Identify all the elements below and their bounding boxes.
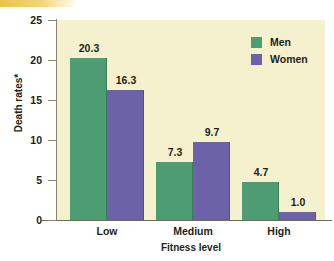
x-tick-label-medium: Medium: [153, 226, 233, 237]
y-tick-0: [48, 220, 56, 221]
legend-item-men[interactable]: Men: [251, 34, 308, 51]
x-tick-label-low: Low: [67, 226, 147, 237]
y-tick-15: [48, 100, 56, 101]
bar-high-women[interactable]: [279, 212, 316, 220]
y-tick-label-0: 0: [2, 215, 42, 226]
bar-value-high-women: 1.0: [271, 197, 325, 208]
legend-swatch-men-icon: [251, 37, 262, 48]
x-axis-title: Fitness level: [57, 243, 325, 253]
bar-value-low-men: 20.3: [62, 43, 116, 54]
y-axis-line: [56, 19, 57, 221]
legend: Men Women: [251, 34, 308, 68]
bar-medium-men[interactable]: [156, 162, 193, 220]
bar-value-low-women: 16.3: [99, 75, 153, 86]
legend-swatch-women-icon: [251, 54, 262, 65]
y-tick-5: [48, 180, 56, 181]
bar-chart-figure: 25 20 15 10 5 0 20.3 16.3 7.3 9.7 4.7 1.…: [0, 0, 334, 261]
y-tick-10: [48, 140, 56, 141]
bar-medium-women[interactable]: [193, 142, 230, 220]
bar-value-high-men: 4.7: [234, 167, 288, 178]
bar-low-women[interactable]: [107, 90, 144, 220]
y-tick-20: [48, 60, 56, 61]
y-tick-label-25: 25: [2, 15, 42, 26]
x-axis-line: [42, 220, 332, 221]
bar-value-medium-women: 9.7: [185, 127, 239, 138]
legend-label-men: Men: [270, 37, 291, 48]
y-axis-title: Death rates*: [14, 48, 24, 158]
legend-label-women: Women: [270, 54, 308, 65]
y-tick-label-5: 5: [2, 175, 42, 186]
legend-item-women[interactable]: Women: [251, 51, 308, 68]
y-tick-25: [48, 20, 56, 21]
x-tick-label-high: High: [239, 226, 319, 237]
